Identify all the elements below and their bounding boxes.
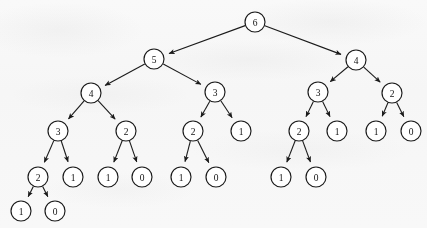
tree-edge-3-to-2 [44, 141, 53, 163]
tree-edge-4-to-2 [364, 67, 380, 82]
node-label: 3 [56, 127, 61, 137]
node-label: 2 [297, 127, 302, 137]
tree-edge-5-to-3 [163, 64, 201, 84]
node-label: 2 [191, 127, 196, 137]
tree-node: 1 [11, 201, 31, 221]
node-label: 1 [279, 173, 284, 183]
tree-node: 4 [346, 50, 366, 70]
tree-node: 0 [306, 167, 326, 187]
tree-diagram-canvas: 6544332322121102110101010 [0, 0, 427, 228]
tree-edge-3-to-1 [323, 101, 330, 116]
tree-node: 0 [401, 121, 421, 141]
tree-node: 2 [116, 121, 136, 141]
tree-edge-2-to-0 [129, 141, 136, 162]
tree-node: 3 [308, 82, 328, 102]
tree-edge-2-to-1 [382, 103, 388, 117]
tree-node: 1 [171, 167, 191, 187]
node-label: 0 [409, 127, 414, 137]
tree-node: 0 [45, 201, 65, 221]
node-label: 5 [152, 55, 157, 65]
tree-node: 4 [81, 83, 101, 103]
tree-node: 1 [63, 167, 83, 187]
tree-edge-2-to-1 [185, 141, 190, 161]
tree-node: 1 [366, 121, 386, 141]
tree-node: 1 [98, 167, 118, 187]
tree-node: 2 [183, 121, 203, 141]
tree-node: 2 [382, 83, 402, 103]
tree-edge-2-to-0 [198, 140, 209, 162]
tree-edge-5-to-4 [105, 64, 145, 85]
tree-edge-4-to-2 [98, 101, 115, 120]
node-label: 6 [253, 18, 258, 28]
tree-node: 3 [48, 121, 68, 141]
tree-node: 1 [271, 167, 291, 187]
node-label: 2 [36, 173, 41, 183]
tree-node: 1 [231, 121, 251, 141]
node-label: 0 [140, 173, 145, 183]
tree-edge-3-to-2 [201, 101, 210, 117]
node-label: 2 [390, 89, 395, 99]
tree-node: 2 [289, 121, 309, 141]
tree-edge-2-to-0 [303, 141, 311, 162]
tree-node: 3 [205, 82, 225, 102]
node-label: 0 [53, 207, 58, 217]
node-label: 1 [71, 173, 76, 183]
tree-node: 5 [144, 49, 164, 69]
node-label: 2 [124, 127, 129, 137]
node-label: 1 [106, 173, 111, 183]
tree-edge-6-to-5 [169, 26, 245, 54]
node-label: 1 [239, 127, 244, 137]
tree-edge-4-to-3 [68, 101, 84, 119]
node-label: 4 [89, 89, 94, 99]
tree-edge-3-to-1 [61, 141, 68, 162]
node-label: 0 [214, 173, 219, 183]
node-label: 4 [354, 56, 359, 66]
tree-edge-2-to-0 [43, 186, 48, 196]
tree-nodes-group: 6544332322121102110101010 [11, 12, 421, 221]
tree-edge-6-to-4 [265, 26, 341, 55]
tree-edge-3-to-2 [306, 101, 313, 116]
recursion-tree-figure: 6544332322121102110101010 [0, 0, 427, 228]
tree-edge-3-to-1 [221, 101, 232, 118]
tree-node: 6 [245, 12, 265, 32]
tree-edge-2-to-1 [114, 141, 122, 162]
node-label: 1 [335, 127, 340, 137]
node-label: 3 [316, 88, 321, 98]
node-label: 1 [19, 207, 24, 217]
node-label: 0 [314, 173, 319, 183]
node-label: 1 [179, 173, 184, 183]
tree-edge-4-to-3 [330, 67, 348, 82]
tree-edge-2-to-0 [397, 102, 404, 116]
tree-node: 0 [206, 167, 226, 187]
tree-node: 2 [28, 167, 48, 187]
tree-edge-2-to-1 [28, 186, 33, 196]
tree-node: 0 [132, 167, 152, 187]
node-label: 3 [213, 88, 218, 98]
tree-node: 1 [327, 121, 347, 141]
tree-edge-2-to-1 [287, 141, 295, 162]
node-label: 1 [374, 127, 379, 137]
